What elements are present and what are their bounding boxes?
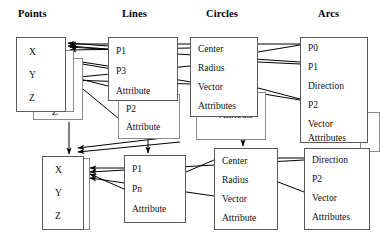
column-header-points: Points (18, 8, 47, 19)
arc-circles-entity-box[interactable]: CenterRadiusVectorAttribute (214, 148, 278, 230)
field-vector: Vector (222, 194, 247, 204)
field-center: Center (198, 44, 223, 54)
points-entity-box[interactable]: XYZ (16, 37, 66, 112)
field-attribute: Attribute (116, 86, 150, 96)
field-x: X (55, 165, 62, 175)
column-header-circles: Circles (206, 8, 238, 19)
polyline-entity-box[interactable]: P1PnAttribute (124, 155, 186, 223)
edge-polyline-to-circles2 (186, 160, 214, 172)
edge-polyline-pn-to-points2-x (90, 174, 124, 189)
edge-lines-stack-to-points2b (78, 142, 180, 152)
arc-detail-entity-box[interactable]: DirectionP2VectorAttributes (304, 148, 370, 230)
field-vector: Vector (308, 119, 333, 129)
field-direction: Direction (308, 81, 344, 91)
column-header-arcs: Arcs (318, 8, 339, 19)
field-p1: P1 (116, 46, 126, 56)
field-z: Z (55, 211, 61, 221)
field-x: X (29, 47, 36, 57)
field-pn: Pn (132, 184, 142, 194)
field-p1: P1 (132, 164, 142, 174)
field-p0: P0 (308, 43, 318, 53)
field-vector: Vector (312, 193, 337, 203)
edge-lines-p1-to-points-x (68, 43, 108, 46)
arcs-entity-box[interactable]: P0P1DirectionP2VectorAttributes (300, 37, 368, 143)
edge-circles-to-arcs-p1 (258, 62, 300, 64)
field-z: Z (29, 93, 35, 103)
field-p2: P2 (312, 174, 322, 184)
field-y: Y (55, 188, 62, 198)
field-direction: Direction (312, 155, 348, 165)
field-radius: Radius (222, 175, 248, 185)
edge-circles2-to-arcs2-mid (278, 182, 304, 192)
edge-lines-p1b-to-points-x (68, 46, 108, 49)
field-vector: Vector (198, 82, 223, 92)
field-p2: P2 (308, 100, 318, 110)
diagram-canvas: PointsLinesCirclesArcs ZXYZP2AttributeP1… (0, 0, 380, 242)
field-attribute: Attribute (222, 213, 256, 223)
field-radius: Radius (198, 63, 224, 73)
field-p3: P3 (116, 66, 126, 76)
field-attributes: Attributes (198, 101, 236, 111)
field-attributes: Attributes (312, 212, 350, 222)
field-attribute: Attribute (132, 204, 166, 214)
field-attributes: Attributes (308, 133, 346, 143)
edge-arcs-p1-to-points-x (70, 47, 300, 62)
field-p1: P1 (308, 62, 318, 72)
field-center: Center (222, 156, 247, 166)
field-attribute: Attribute (126, 122, 160, 132)
column-header-lines: Lines (122, 8, 147, 19)
field-y: Y (29, 70, 36, 80)
field-p2: P2 (126, 104, 136, 114)
lines-entity-box[interactable]: P1P3Attribute (108, 37, 178, 101)
polyline-points-entity-box[interactable]: XYZ (42, 156, 84, 230)
circles-entity-box[interactable]: CenterRadiusVectorAttributes (190, 37, 258, 117)
edge-circles-to-arcs-p0 (258, 45, 300, 52)
